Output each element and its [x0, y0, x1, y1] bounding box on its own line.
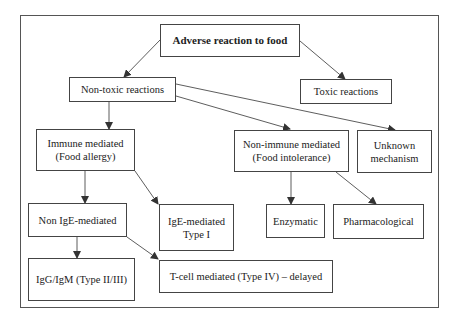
node-toxic-reactions: Toxic reactions	[300, 79, 392, 104]
node-igg-igm: IgG/IgM (Type II/III)	[28, 258, 135, 301]
node-label: Non-toxic reactions	[81, 83, 164, 96]
node-immune-mediated: Immune mediated (Food allergy)	[36, 129, 135, 171]
node-adverse-reaction-to-food: Adverse reaction to food	[160, 24, 300, 57]
node-label: Enzymatic	[273, 215, 318, 228]
node-non-ige-mediated: Non IgE-mediated	[28, 203, 127, 237]
node-non-immune-mediated: Non-immune mediated (Food intolerance)	[234, 130, 349, 172]
node-label: Adverse reaction to food	[173, 34, 288, 47]
node-label: Pharmacological	[343, 215, 414, 228]
node-t-cell-mediated: T-cell mediated (Type IV) – delayed	[159, 260, 333, 293]
node-label: IgE-mediated Type I	[168, 215, 225, 241]
node-label: Toxic reactions	[314, 85, 378, 98]
node-label: Unknown mechanism	[371, 139, 419, 165]
node-ige-mediated: IgE-mediated Type I	[159, 204, 234, 251]
node-label: Non-immune mediated (Food intolerance)	[243, 138, 340, 164]
node-label: T-cell mediated (Type IV) – delayed	[170, 270, 323, 283]
node-enzymatic: Enzymatic	[266, 204, 325, 238]
node-label: Immune mediated (Food allergy)	[47, 137, 123, 163]
node-non-toxic-reactions: Non-toxic reactions	[69, 77, 176, 102]
node-unknown-mechanism: Unknown mechanism	[357, 130, 432, 173]
node-label: IgG/IgM (Type II/III)	[36, 273, 127, 286]
node-label: Non IgE-mediated	[39, 214, 117, 227]
node-pharmacological: Pharmacological	[333, 204, 424, 239]
